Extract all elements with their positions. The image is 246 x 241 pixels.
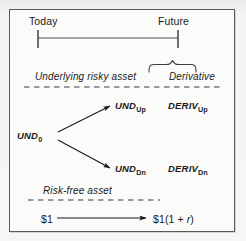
node-und-dn-base: UND — [115, 163, 136, 174]
branch-up-arrow — [58, 106, 110, 132]
node-und-dn: UNDDn — [115, 164, 146, 176]
figure-drawing-layer — [0, 0, 246, 241]
binomial-branches — [58, 106, 110, 168]
section-label-risk-free-asset: Risk-free asset — [43, 186, 112, 196]
node-und-dn-subscript: Dn — [136, 168, 146, 177]
timeline-label-future: Future — [158, 16, 189, 27]
section-label-underlying-risky-asset: Underlying risky asset — [35, 72, 136, 82]
node-deriv-up: DERIVUp — [168, 101, 208, 113]
timeline-axis — [38, 30, 178, 48]
node-deriv-dn-base: DERIV — [168, 163, 198, 174]
node-und-0: UND0 — [17, 131, 42, 143]
riskfree-end-value-prefix: $1(1 + — [153, 213, 187, 225]
riskfree-end-value: $1(1 + r) — [153, 214, 194, 225]
branch-down-arrow — [58, 140, 110, 168]
section-label-derivative: Derivative — [169, 72, 215, 82]
node-und-0-base: UND — [17, 130, 38, 141]
binomial-model-figure: Today Future Underlying risky asset Deri… — [0, 0, 246, 241]
node-deriv-up-subscript: Up — [198, 105, 208, 114]
riskfree-end-value-suffix: ) — [190, 213, 194, 225]
node-deriv-dn: DERIVDn — [168, 164, 208, 176]
node-und-0-subscript: 0 — [38, 135, 42, 144]
node-und-up-base: UND — [115, 100, 136, 111]
node-deriv-up-base: DERIV — [168, 100, 198, 111]
node-deriv-dn-subscript: Dn — [198, 168, 208, 177]
node-und-up-subscript: Up — [136, 105, 146, 114]
node-und-up: UNDUp — [115, 101, 146, 113]
timeline-label-today: Today — [29, 16, 58, 27]
riskfree-start-value: $1 — [41, 214, 53, 225]
